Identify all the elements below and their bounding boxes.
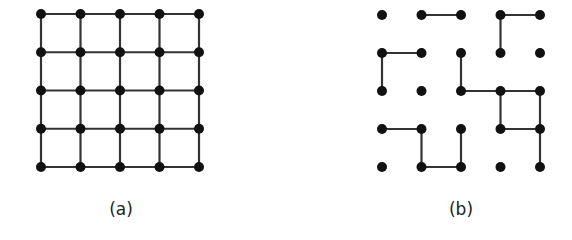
graph-node: [417, 86, 427, 96]
graph-node: [377, 48, 387, 58]
graph-node: [155, 9, 165, 19]
graph-node: [194, 9, 204, 19]
graph-node: [155, 86, 165, 96]
graph-node: [377, 86, 387, 96]
graph-node: [36, 86, 46, 96]
caption-a: (a): [91, 199, 151, 219]
graph-node: [535, 10, 545, 20]
graph-node: [417, 162, 427, 172]
graph-node: [456, 162, 466, 172]
graph-node: [76, 124, 86, 134]
full-grid-graph-a: [36, 9, 204, 172]
graph-node: [377, 162, 387, 172]
graph-node: [496, 86, 506, 96]
graph-node: [496, 10, 506, 20]
graph-node: [115, 47, 125, 57]
graph-node: [36, 162, 46, 172]
graph-node: [36, 9, 46, 19]
graph-node: [36, 124, 46, 134]
graph-node: [535, 124, 545, 134]
graph-node: [377, 124, 387, 134]
graph-node: [155, 124, 165, 134]
graph-node: [535, 48, 545, 58]
graph-node: [456, 86, 466, 96]
graph-node: [194, 47, 204, 57]
caption-b: (b): [431, 199, 491, 219]
graph-node: [417, 48, 427, 58]
graph-node: [115, 162, 125, 172]
graph-node: [417, 124, 427, 134]
graph-node: [36, 47, 46, 57]
graph-node: [115, 9, 125, 19]
graph-node: [535, 86, 545, 96]
sparse-grid-graph-b: [377, 10, 545, 172]
graph-node: [496, 162, 506, 172]
graph-node: [76, 47, 86, 57]
graph-node: [417, 10, 427, 20]
graph-node: [76, 86, 86, 96]
graph-node: [76, 162, 86, 172]
graph-node: [155, 162, 165, 172]
graph-node: [456, 124, 466, 134]
graph-node: [456, 10, 466, 20]
graph-node: [456, 48, 466, 58]
graph-node: [115, 124, 125, 134]
graph-node: [496, 48, 506, 58]
graph-node: [496, 124, 506, 134]
graph-node: [194, 162, 204, 172]
graph-node: [115, 86, 125, 96]
graph-node: [194, 124, 204, 134]
graph-node: [76, 9, 86, 19]
graph-node: [155, 47, 165, 57]
graph-node: [377, 10, 387, 20]
graph-node: [535, 162, 545, 172]
graph-node: [194, 86, 204, 96]
